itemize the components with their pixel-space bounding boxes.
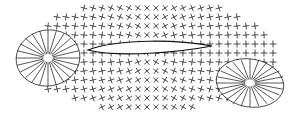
airfoil-shape [88,41,212,54]
mesh-diagram [0,0,293,134]
